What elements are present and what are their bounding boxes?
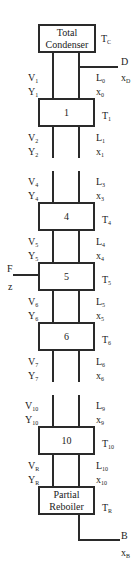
vapor-comp-1: Y1 [28, 86, 38, 97]
liquid-comp-6: x6 [96, 370, 104, 381]
condenser-label-1: Total [57, 27, 77, 39]
stage-1: 1 [38, 98, 95, 127]
reboiler-temp: TR [102, 502, 112, 513]
partial-reboiler: Partial Reboiler [38, 486, 95, 515]
stage-5-temp: T5 [102, 274, 111, 285]
liquid-label-10: L10 [96, 460, 108, 471]
liquid-comp-0: x0 [96, 86, 104, 97]
vapor-label-10: V10 [25, 400, 38, 411]
vapor-comp-10: Y10 [25, 414, 38, 425]
liquid-comp-10: x10 [96, 474, 107, 485]
liquid-comp-5: x5 [96, 310, 104, 321]
liquid-label-4: L4 [96, 236, 105, 247]
reboiler-label-2: Reboiler [49, 501, 83, 513]
vapor-label-1: V1 [28, 72, 38, 83]
vapor-label-6: V6 [28, 296, 38, 307]
liquid-comp-4: x4 [96, 250, 104, 261]
vapor-comp-7: Y7 [28, 370, 38, 381]
bottoms-line [78, 539, 120, 541]
vapor-comp-R: YR [28, 474, 39, 485]
vapor-label-4: V4 [28, 176, 38, 187]
bottoms-label: B [121, 530, 128, 541]
bottoms-vertical-line [78, 513, 80, 541]
liquid-label-0: L0 [96, 72, 105, 83]
vapor-label-2: V2 [28, 132, 38, 143]
stage-6: 6 [38, 322, 95, 351]
total-condenser: Total Condenser [38, 24, 96, 53]
liquid-label-9: L9 [96, 400, 105, 411]
stage-4: 4 [38, 202, 95, 231]
liquid-label-5: L5 [96, 296, 105, 307]
stage-1-temp: T1 [102, 110, 111, 121]
vapor-label-7: V7 [28, 356, 38, 367]
liquid-comp-1: x1 [96, 146, 104, 157]
condenser-label-2: Condenser [46, 39, 89, 51]
vapor-label-5: V5 [28, 236, 38, 247]
feed-label: F [7, 263, 13, 274]
liquid-label-3: L3 [96, 176, 105, 187]
stage-5-feed: 5 [38, 262, 95, 291]
distillate-line [78, 66, 118, 68]
stage-6-temp: T6 [102, 334, 111, 345]
stage-10-temp: T10 [102, 438, 114, 449]
liquid-label-1: L1 [96, 132, 105, 143]
bottoms-comp: xB [121, 547, 130, 558]
reboiler-label-1: Partial [53, 489, 79, 501]
feed-comp: z [8, 281, 12, 292]
vapor-comp-5: Y5 [28, 250, 38, 261]
distillate-comp: xD [121, 72, 130, 83]
vapor-label-R: VR [28, 460, 39, 471]
stage-10: 10 [38, 426, 95, 455]
distillate-label: D [121, 56, 128, 67]
liquid-comp-3: x3 [96, 190, 104, 201]
stage-4-temp: T4 [102, 214, 111, 225]
condenser-temp: TC [101, 33, 111, 44]
vapor-comp-4: Y4 [28, 190, 38, 201]
liquid-label-6: L6 [96, 356, 105, 367]
vapor-comp-2: Y2 [28, 146, 38, 157]
feed-line [13, 274, 39, 276]
liquid-comp-9: x9 [96, 414, 104, 425]
vapor-comp-6: Y6 [28, 310, 38, 321]
